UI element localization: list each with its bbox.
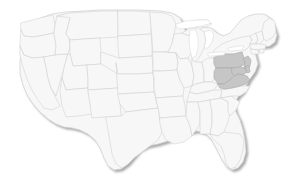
- state-arkansas[interactable]: [156, 96, 186, 118]
- us-choropleth-map[interactable]: [0, 0, 288, 182]
- state-alabama[interactable]: [198, 100, 212, 134]
- state-new-mexico[interactable]: [88, 88, 121, 118]
- state-connecticut[interactable]: [251, 49, 259, 54]
- state-south-dakota[interactable]: [118, 34, 152, 58]
- state-north-dakota[interactable]: [118, 11, 151, 36]
- map-container: [0, 0, 288, 182]
- state-wyoming[interactable]: [70, 38, 101, 66]
- highlighted-states-layer: [214, 52, 251, 89]
- state-iowa[interactable]: [153, 52, 178, 71]
- state-rhode-island[interactable]: [260, 49, 264, 53]
- state-delaware[interactable]: [246, 66, 250, 73]
- state-texas[interactable]: [106, 108, 162, 168]
